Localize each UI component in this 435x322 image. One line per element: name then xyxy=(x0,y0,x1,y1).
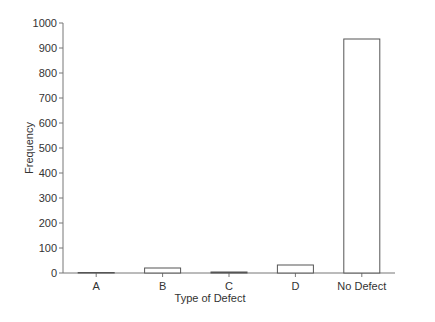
x-axis: ABCDNo Defect xyxy=(63,273,395,292)
y-tick-label: 100 xyxy=(39,242,57,254)
bar-c xyxy=(211,272,247,273)
x-axis-title: Type of Defect xyxy=(175,292,246,304)
y-tick-label: 1000 xyxy=(33,17,57,29)
y-tick-label: 200 xyxy=(39,217,57,229)
y-tick-label: 0 xyxy=(51,267,57,279)
y-tick-label: 500 xyxy=(39,142,57,154)
bars xyxy=(78,39,380,273)
y-tick-label: 300 xyxy=(39,192,57,204)
bar-d xyxy=(277,265,313,273)
x-tick-label: B xyxy=(159,280,166,292)
y-tick-label: 700 xyxy=(39,92,57,104)
y-axis: 01002003004005006007008009001000 xyxy=(33,17,63,279)
bar-chart: 01002003004005006007008009001000 ABCDNo … xyxy=(0,0,435,322)
x-tick-label: C xyxy=(225,280,233,292)
bar-b xyxy=(145,268,181,273)
y-tick-label: 400 xyxy=(39,167,57,179)
y-axis-title: Frequency xyxy=(23,122,35,174)
bar-no-defect xyxy=(344,39,380,273)
x-tick-label: D xyxy=(291,280,299,292)
bar-a xyxy=(78,273,114,274)
y-tick-label: 800 xyxy=(39,67,57,79)
y-tick-label: 600 xyxy=(39,117,57,129)
x-tick-label: No Defect xyxy=(337,280,386,292)
x-tick-label: A xyxy=(93,280,101,292)
y-tick-label: 900 xyxy=(39,42,57,54)
